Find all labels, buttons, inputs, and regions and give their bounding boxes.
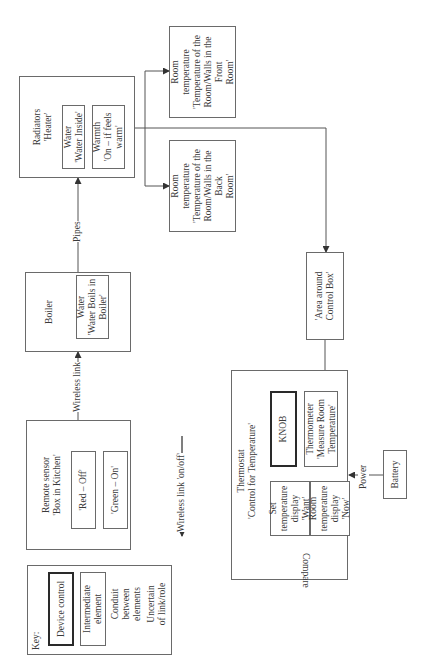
remote-sensor-title: Remote sensor 'Box in Kitchen': [41, 421, 63, 549]
area-control-box: 'Area around Control Box': [306, 252, 344, 340]
power-label: Power: [358, 465, 369, 489]
thermostat-title: Thermostat 'Control for Temperature': [236, 411, 258, 531]
radiators-water: Water 'Water Inside': [62, 105, 85, 169]
boiler-title: Boiler: [44, 273, 55, 351]
compare-label: Compare: [300, 553, 311, 579]
knob-control: KNOB: [270, 391, 297, 467]
battery-box: Battery: [383, 450, 407, 499]
key-intermediate-element: Intermediate element: [80, 572, 106, 646]
key-conduit: Conduit between elements: [110, 574, 143, 634]
key-uncertain: Uncertain of link/role: [146, 574, 168, 634]
room-temperature-display: Room temperature display 'Now': [310, 481, 350, 536]
radiators-box: Radiators 'Heater' Water 'Water Inside' …: [19, 76, 135, 178]
boiler-box: Boiler Water 'Water Boils in Boiler': [25, 272, 131, 352]
green-on-indicator: 'Green – On': [103, 451, 128, 529]
room-back-box: Room temperature 'Temperature of the Roo…: [169, 140, 236, 232]
heating-system-diagram: Key: Device control Intermediate element…: [0, 0, 427, 667]
key-device-control: Device control: [48, 572, 74, 646]
red-off-indicator: 'Red – Off': [71, 451, 96, 529]
thermometer-box: Thermometer 'Measure Room Temperature': [304, 391, 338, 467]
thermostat-box: Thermostat 'Control for Temperature' KNO…: [231, 370, 348, 580]
boiler-water: Water 'Water Boils in Boiler': [76, 275, 109, 339]
wireless-on-off-label: Wireless link 'on/off': [176, 453, 187, 532]
set-temperature-display: Set temperature display 'Want': [270, 481, 310, 536]
pipes-label: Pipes: [72, 221, 83, 242]
radiators-warmth: Warmth 'On – if feels warm': [92, 105, 125, 169]
key-legend: Key: Device control Intermediate element…: [27, 565, 172, 655]
radiators-title: Radiators 'Heater': [32, 77, 54, 177]
wireless-link-label: Wireless link: [72, 362, 83, 412]
remote-sensor-box: Remote sensor 'Box in Kitchen' 'Red – Of…: [26, 420, 131, 550]
room-front-box: Room temperature 'Temperature of the Roo…: [169, 26, 236, 118]
key-title: Key:: [31, 632, 42, 650]
